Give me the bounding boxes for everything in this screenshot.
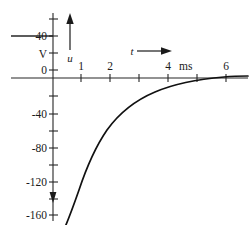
y-tick-labels: 40 V 0 -40 -80 -120 -160 — [26, 30, 48, 221]
y-tick-label-neg80: -80 — [32, 142, 48, 154]
x-tick-labels: 1 2 4 6 ms — [78, 60, 229, 72]
y-tick-label-neg40: -40 — [32, 108, 48, 120]
y-tick-label-neg160: -160 — [26, 209, 47, 221]
u-axis-arrow-icon — [66, 13, 73, 50]
x-tick-label-4: 4 — [165, 60, 171, 72]
y-axis-variable-label: u — [67, 52, 73, 64]
y-tick-label-neg120: -120 — [26, 176, 47, 188]
x-axis-variable-label: t — [130, 45, 134, 57]
y-axis-unit-label: V — [39, 48, 48, 60]
drop-arrow-icon — [50, 192, 57, 203]
x-tick-label-1: 1 — [78, 60, 84, 72]
plot-canvas: 1 2 4 6 ms 40 V 0 -40 -80 -120 -160 u t — [0, 0, 251, 225]
t-axis-arrow-icon — [137, 47, 172, 54]
y-tick-label-40: 40 — [36, 30, 48, 42]
x-axis-unit-label: ms — [179, 60, 193, 72]
x-tick-label-2: 2 — [107, 60, 113, 72]
exponential-decay-curve — [61, 76, 248, 225]
voltage-decay-figure: 1 2 4 6 ms 40 V 0 -40 -80 -120 -160 u t — [0, 0, 251, 225]
y-tick-label-0: 0 — [41, 64, 47, 76]
x-tick-label-6: 6 — [223, 60, 229, 72]
